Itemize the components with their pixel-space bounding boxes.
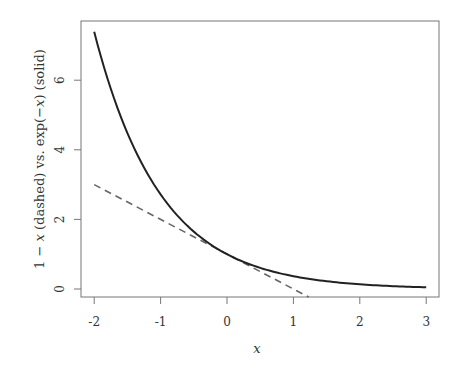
y-tick-label: 6 (53, 76, 67, 84)
y-tick-label: 2 (53, 216, 67, 224)
x-tick-label: 3 (422, 315, 430, 329)
y-axis (74, 80, 81, 289)
solid-curve-exp-neg-x (94, 32, 426, 287)
x-tick-label: 2 (356, 315, 364, 329)
chart: -2 -1 0 1 2 3 0 2 4 6 x 1 − x (dashed) v… (0, 0, 460, 377)
y-tick-labels: 0 2 4 6 (53, 76, 67, 292)
x-axis-title: x (253, 341, 261, 356)
x-axis (94, 297, 426, 304)
y-axis-title: 1 − x (dashed) vs. exp(−x) (solid) (32, 49, 47, 269)
x-tick-labels: -2 -1 0 1 2 3 (88, 315, 430, 329)
x-tick-label: 0 (223, 315, 231, 329)
y-tick-label: 4 (53, 146, 67, 154)
x-tick-label: -1 (155, 315, 167, 329)
x-tick-label: 1 (290, 315, 298, 329)
y-tick-label: 0 (53, 285, 67, 293)
plot-frame (81, 21, 439, 297)
x-tick-label: -2 (88, 315, 100, 329)
dashed-line-1-minus-x (94, 185, 309, 297)
